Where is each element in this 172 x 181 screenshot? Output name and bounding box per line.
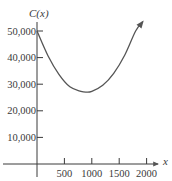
y-tick-label: 20,000 <box>7 105 36 116</box>
x-tick-label: 1000 <box>81 168 102 179</box>
x-axis-label: x <box>162 155 168 167</box>
x-tick-label: 1500 <box>109 168 130 179</box>
y-tick-label: 40,000 <box>7 52 36 63</box>
cost-function-chart: 10,00020,00030,00040,00050,000 500100015… <box>0 0 172 181</box>
x-tick-label: 2000 <box>136 168 157 179</box>
cost-curve <box>37 22 143 93</box>
y-tick-label: 50,000 <box>7 26 36 37</box>
y-ticks: 10,00020,00030,00040,00050,000 <box>7 26 43 143</box>
x-tick-label: 500 <box>57 168 73 179</box>
x-ticks: 500100015002000 <box>57 158 158 179</box>
y-tick-label: 30,000 <box>7 79 36 90</box>
y-tick-label: 10,000 <box>7 132 36 143</box>
y-axis-label: C(x) <box>29 7 49 20</box>
